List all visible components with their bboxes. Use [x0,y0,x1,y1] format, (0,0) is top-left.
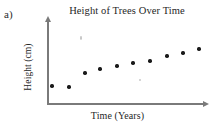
y-axis-arrow-icon [45,16,51,22]
data-point [148,59,151,62]
data-point [83,71,86,74]
data-point [67,85,70,88]
figure-container: a) Height of Trees Over Time Height (cm)… [0,0,215,129]
x-axis-line [47,103,205,105]
y-axis-label: Height (cm) [23,31,33,103]
data-point [139,79,142,82]
x-axis-label: Time (Years) [60,110,175,121]
data-point [165,54,168,57]
data-point [115,64,118,67]
data-point [131,61,134,64]
data-point [181,51,184,54]
data-point [50,84,53,87]
data-point [197,47,200,50]
data-point [98,67,101,70]
y-axis-line [47,22,49,105]
x-axis-arrow-icon [203,101,209,107]
scan-artifact [80,36,82,39]
